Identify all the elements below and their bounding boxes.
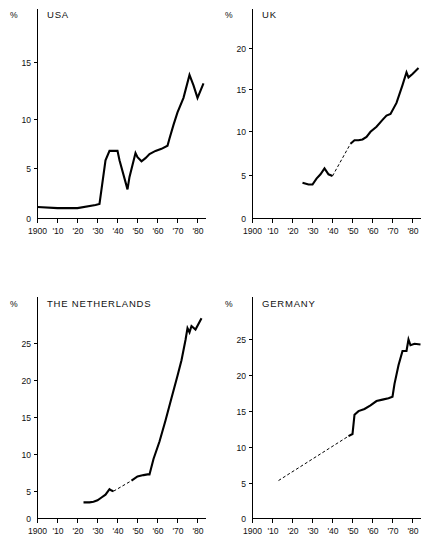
germany-ytick-25: 25 <box>236 335 246 345</box>
usa-ytick-10: 10 <box>21 115 31 125</box>
panel-netherlands: % THE NETHERLANDS 25 20 15 10 5 0 <box>0 285 215 546</box>
uk-ytick-5: 5 <box>241 171 246 181</box>
usa-xtick-10: '10 <box>52 226 63 236</box>
netherlands-chart-svg: % THE NETHERLANDS 25 20 15 10 5 0 <box>0 285 215 546</box>
uk-xtick-1900: 1900 <box>243 226 262 236</box>
series-line-0-solid <box>38 75 204 208</box>
usa-ytick-15: 15 <box>21 58 31 68</box>
uk-xtick-30: '30 <box>307 226 318 236</box>
netherlands-ytick-0: 0 <box>26 514 31 524</box>
uk-xtick-70: '70 <box>387 226 398 236</box>
usa-xtick-40: '40 <box>112 226 123 236</box>
germany-ytick-0: 0 <box>241 514 246 524</box>
netherlands-series-group <box>84 318 202 502</box>
usa-chart-svg: % USA 15 10 5 0 <box>0 0 215 273</box>
uk-xtick-40: '40 <box>327 226 338 236</box>
series-line-1-dashed <box>114 481 132 492</box>
series-line-2-solid <box>132 318 202 480</box>
uk-x-ticks: 1900 '10 '20 '30 '40 '50 '60 '70 '80 <box>243 219 419 237</box>
series-line-0-solid <box>303 168 333 184</box>
netherlands-xtick-60: '60 <box>152 526 163 536</box>
uk-unit-label: % <box>225 10 233 20</box>
uk-y-ticks: 20 15 10 5 0 <box>236 44 252 224</box>
series-line-2-solid <box>351 68 419 144</box>
panel-usa: % USA 15 10 5 0 <box>0 0 215 273</box>
netherlands-panel-title: THE NETHERLANDS <box>47 298 151 309</box>
uk-xtick-10: '10 <box>267 226 278 236</box>
usa-series-group <box>38 75 204 208</box>
germany-xtick-20: '20 <box>287 526 298 536</box>
netherlands-xtick-70: '70 <box>172 526 183 536</box>
usa-xtick-1900: 1900 <box>28 226 47 236</box>
uk-ytick-10: 10 <box>236 127 246 137</box>
netherlands-xtick-40: '40 <box>112 526 123 536</box>
uk-ytick-15: 15 <box>236 85 246 95</box>
uk-xtick-50: '50 <box>347 226 358 236</box>
usa-xtick-50: '50 <box>132 226 143 236</box>
netherlands-xtick-10: '10 <box>52 526 63 536</box>
usa-x-ticks: 1900 '10 '20 '30 '40 '50 '60 '70 '80 <box>28 219 204 237</box>
germany-xtick-50: '50 <box>347 526 358 536</box>
germany-panel-title: GERMANY <box>262 298 316 309</box>
uk-series-group <box>303 68 419 184</box>
usa-unit-label: % <box>10 10 18 20</box>
uk-xtick-20: '20 <box>287 226 298 236</box>
netherlands-unit-label: % <box>10 299 18 309</box>
netherlands-y-ticks: 25 20 15 10 5 0 <box>21 339 37 524</box>
usa-ytick-5: 5 <box>26 164 31 174</box>
germany-x-ticks: 1900 '10 '20 '30 '40 '50 '60 '70 '80 <box>243 519 419 537</box>
usa-xtick-70: '70 <box>172 226 183 236</box>
germany-series-group <box>279 340 421 481</box>
germany-axes <box>253 297 422 519</box>
netherlands-ytick-25: 25 <box>21 339 31 349</box>
netherlands-ytick-5: 5 <box>26 487 31 497</box>
germany-ytick-5: 5 <box>241 479 246 489</box>
panel-germany: % GERMANY 25 20 15 10 5 0 <box>215 285 429 546</box>
netherlands-x-ticks: 1900 '10 '20 '30 '40 '50 '60 '70 '80 <box>28 519 204 537</box>
germany-chart-svg: % GERMANY 25 20 15 10 5 0 <box>215 285 429 546</box>
usa-panel-title: USA <box>47 9 69 20</box>
usa-xtick-20: '20 <box>72 226 83 236</box>
germany-ytick-20: 20 <box>236 371 246 381</box>
uk-xtick-80: '80 <box>407 226 418 236</box>
series-line-1-solid <box>349 340 421 437</box>
uk-axes <box>253 9 422 219</box>
series-line-1-dashed <box>333 144 351 176</box>
series-line-0-dashed <box>279 436 349 480</box>
netherlands-xtick-80: '80 <box>192 526 203 536</box>
usa-xtick-80: '80 <box>192 226 203 236</box>
germany-xtick-1900: 1900 <box>243 526 262 536</box>
usa-ytick-0: 0 <box>26 214 31 224</box>
uk-xtick-60: '60 <box>367 226 378 236</box>
netherlands-xtick-20: '20 <box>72 526 83 536</box>
netherlands-xtick-50: '50 <box>132 526 143 536</box>
usa-xtick-30: '30 <box>92 226 103 236</box>
uk-ytick-20: 20 <box>236 44 246 54</box>
usa-y-ticks: 15 10 5 0 <box>21 58 37 224</box>
germany-xtick-40: '40 <box>327 526 338 536</box>
germany-xtick-10: '10 <box>267 526 278 536</box>
germany-xtick-30: '30 <box>307 526 318 536</box>
germany-unit-label: % <box>225 299 233 309</box>
germany-xtick-60: '60 <box>367 526 378 536</box>
uk-ytick-0: 0 <box>241 214 246 224</box>
usa-axes <box>38 9 207 219</box>
usa-xtick-60: '60 <box>152 226 163 236</box>
uk-panel-title: UK <box>262 9 277 20</box>
series-line-0-solid <box>84 489 114 502</box>
netherlands-ytick-20: 20 <box>21 376 31 386</box>
four-panel-line-chart-figure: % USA 15 10 5 0 <box>0 0 429 546</box>
germany-ytick-15: 15 <box>236 407 246 417</box>
netherlands-axes <box>38 297 207 519</box>
netherlands-ytick-10: 10 <box>21 450 31 460</box>
uk-chart-svg: % UK 20 15 10 5 0 <box>215 0 429 273</box>
germany-ytick-10: 10 <box>236 443 246 453</box>
germany-y-ticks: 25 20 15 10 5 0 <box>236 335 252 524</box>
germany-xtick-80: '80 <box>407 526 418 536</box>
netherlands-xtick-30: '30 <box>92 526 103 536</box>
germany-xtick-70: '70 <box>387 526 398 536</box>
panel-uk: % UK 20 15 10 5 0 <box>215 0 429 273</box>
netherlands-ytick-15: 15 <box>21 413 31 423</box>
netherlands-xtick-1900: 1900 <box>28 526 47 536</box>
